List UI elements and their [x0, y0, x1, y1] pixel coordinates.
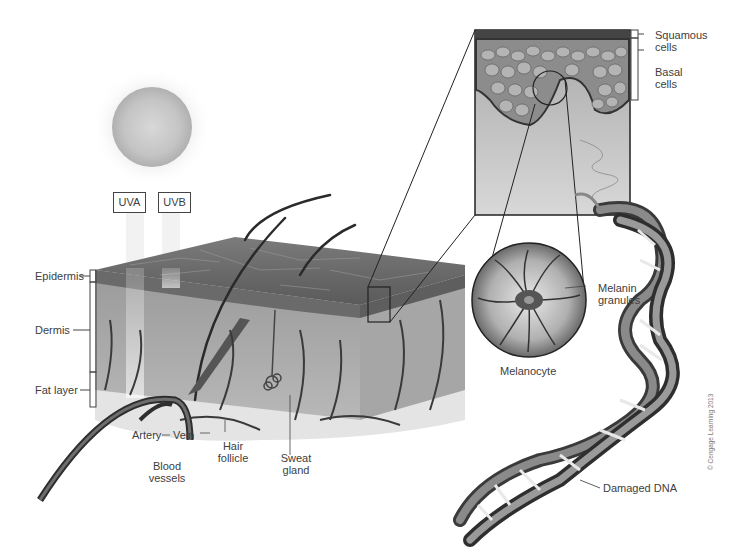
- melanocyte-illustration: [472, 243, 586, 357]
- uva-label: UVA: [113, 192, 146, 213]
- label-basal-cells: Basal cells: [655, 66, 683, 90]
- label-damaged-dna: Damaged DNA: [603, 482, 677, 494]
- label-artery: Artery: [132, 429, 161, 441]
- label-sweat-gland: Sweat gland: [276, 452, 316, 476]
- label-basal-line2: cells: [655, 78, 683, 90]
- label-blood-vessels: Blood vessels: [140, 460, 194, 484]
- label-hair-follicle-line2: follicle: [213, 452, 253, 464]
- label-dermis: Dermis: [35, 324, 70, 336]
- label-blood-vessels-line1: Blood: [140, 460, 194, 472]
- label-squamous-line1: Squamous: [655, 29, 708, 41]
- label-squamous-line2: cells: [655, 41, 708, 53]
- label-epidermis: Epidermis: [35, 270, 84, 282]
- uvb-label: UVB: [158, 192, 191, 213]
- label-basal-line1: Basal: [655, 66, 683, 78]
- label-hair-follicle: Hair follicle: [213, 440, 253, 464]
- label-hair-follicle-line1: Hair: [213, 440, 253, 452]
- label-squamous-cells: Squamous cells: [655, 29, 708, 53]
- label-melanin-line2: granules: [598, 294, 640, 306]
- label-sweat-gland-line1: Sweat: [276, 452, 316, 464]
- label-fat-layer: Fat layer: [35, 384, 78, 396]
- label-sweat-gland-line2: gland: [276, 464, 316, 476]
- copyright-notice: © Cengage Learning 2013: [707, 394, 714, 470]
- label-blood-vessels-line2: vessels: [140, 472, 194, 484]
- diagram-artwork: [0, 0, 738, 557]
- label-melanocyte: Melanocyte: [500, 365, 556, 377]
- label-melanin-granules: Melanin granules: [598, 282, 640, 306]
- epidermis-inset: [475, 30, 630, 215]
- sun-icon: [92, 67, 212, 187]
- label-vein: Vein: [173, 429, 194, 441]
- label-melanin-line1: Melanin: [598, 282, 640, 294]
